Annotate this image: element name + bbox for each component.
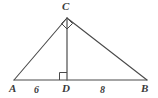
segment-length-db: 8 <box>100 84 105 95</box>
vertex-label-d: D <box>62 83 70 94</box>
right-angle-mark-d-icon <box>60 73 68 81</box>
vertex-label-a: A <box>9 83 16 94</box>
triangle-figure <box>0 0 158 98</box>
segment-cb <box>67 18 147 80</box>
vertex-label-b: B <box>141 83 148 94</box>
vertex-label-c: C <box>62 1 69 12</box>
segment-ac <box>14 18 67 80</box>
segment-length-ad: 6 <box>34 84 39 95</box>
geometry-diagram: C A D B 6 8 <box>0 0 158 98</box>
